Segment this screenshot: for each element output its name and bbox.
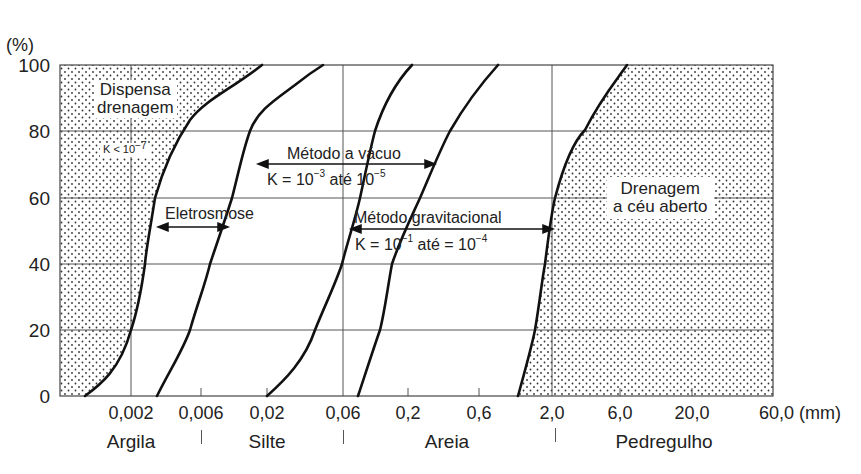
annotation-grav-title: Método gravitacional bbox=[354, 209, 502, 227]
annotation-drenagem-ceu-aberto: Drenagem a céu aberto bbox=[607, 177, 714, 219]
x-tick-20: 2,0 bbox=[539, 404, 564, 422]
ceu-line-1: Drenagem bbox=[613, 180, 708, 198]
curve-4 bbox=[358, 65, 498, 396]
x-tick-200: 20,0 bbox=[674, 404, 709, 422]
ceu-line-2: a céu aberto bbox=[613, 198, 708, 216]
class-divider bbox=[555, 428, 556, 442]
curve-3 bbox=[267, 65, 412, 396]
grav-k-b: até = 10 bbox=[413, 236, 476, 253]
dispensa-line-2: drenagem bbox=[97, 99, 174, 117]
annotation-k-small: K < 10−7 bbox=[100, 143, 150, 157]
class-areia: Areia bbox=[425, 432, 469, 451]
y-tick-80: 80 bbox=[6, 122, 50, 141]
x-tick-0006: 0,006 bbox=[178, 404, 223, 422]
y-tick-40: 40 bbox=[6, 255, 50, 274]
shaded-region-ceu-aberto bbox=[518, 65, 773, 396]
grav-k-exp1: −1 bbox=[402, 233, 413, 244]
y-tick-100: 100 bbox=[6, 56, 50, 75]
annotation-vacuo-title: Método a vácuo bbox=[287, 145, 401, 163]
dispensa-line-1: Dispensa bbox=[97, 81, 174, 99]
y-axis-unit: (%) bbox=[6, 36, 34, 54]
y-tick-60: 60 bbox=[6, 189, 50, 208]
k-small-base: K < 10 bbox=[103, 143, 135, 155]
annotation-dispensa-drenagem: Dispensa drenagem bbox=[94, 80, 177, 118]
vacuo-k-exp1: −3 bbox=[314, 168, 325, 179]
x-tick-006: 0,06 bbox=[325, 404, 360, 422]
class-divider bbox=[201, 430, 202, 444]
annotation-eletrosmose: Eletrosmose bbox=[165, 205, 254, 223]
x-tick-06: 0,6 bbox=[466, 404, 491, 422]
vacuo-k-a: K = 10 bbox=[267, 171, 314, 188]
x-tick-60: 6,0 bbox=[607, 404, 632, 422]
annotation-grav-k: K = 10−1 até = 10−4 bbox=[355, 236, 487, 254]
class-argila: Argila bbox=[107, 432, 156, 451]
y-tick-20: 20 bbox=[6, 321, 50, 340]
class-silte: Silte bbox=[249, 432, 286, 451]
x-tick-600-unit: 60,0 (mm) bbox=[759, 404, 841, 422]
class-pedregulho: Pedregulho bbox=[615, 432, 712, 451]
vacuo-k-exp2: −5 bbox=[374, 168, 385, 179]
x-tick-0002: 0,002 bbox=[108, 404, 153, 422]
class-divider bbox=[343, 430, 344, 444]
grav-k-exp2: −4 bbox=[476, 233, 487, 244]
vacuo-k-b: até 10 bbox=[325, 171, 374, 188]
y-tick-0: 0 bbox=[6, 387, 50, 406]
x-tick-002: 0,02 bbox=[249, 404, 284, 422]
k-small-exp: −7 bbox=[135, 140, 146, 151]
x-tick-02: 0,2 bbox=[395, 404, 420, 422]
annotation-vacuo-k: K = 10−3 até 10−5 bbox=[267, 171, 385, 189]
grav-k-a: K = 10 bbox=[355, 236, 402, 253]
